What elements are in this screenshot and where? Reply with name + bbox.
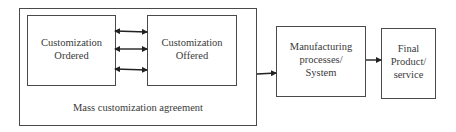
agreement-to-manufacturing-arrow	[257, 73, 276, 74]
bidirectional-arrow-3	[115, 69, 147, 70]
bidirectional-arrow-1	[115, 31, 147, 32]
arrows-layer	[0, 0, 456, 132]
